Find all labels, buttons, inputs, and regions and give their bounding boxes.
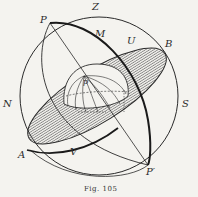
label-s: S: [182, 98, 189, 109]
label-b: B: [164, 38, 172, 49]
label-earth-p: p: [83, 77, 88, 86]
label-n: N: [2, 98, 13, 109]
label-p-prime: P′: [145, 166, 156, 177]
figure-caption: Fig. 105: [84, 185, 117, 193]
label-v: V: [70, 146, 79, 157]
label-z: Z: [91, 1, 100, 12]
label-m: M: [94, 28, 106, 39]
celestial-sphere-diagram: Z P M U B N S A V P′ p Fig. 105: [0, 0, 198, 197]
label-p: P: [39, 14, 47, 25]
label-u: U: [127, 35, 136, 46]
label-a: A: [17, 149, 25, 160]
